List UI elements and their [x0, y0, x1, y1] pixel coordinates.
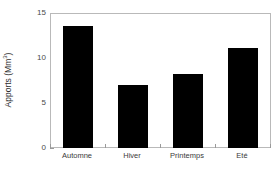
x-tick-label-ete: Eté: [236, 152, 247, 160]
bar-slot-hiver: [105, 13, 160, 148]
bar-automne: [63, 26, 93, 148]
y-tick-label-5: 5: [16, 99, 46, 107]
x-tick-label-automne: Automne: [62, 152, 92, 160]
y-tick-label-10: 10: [16, 54, 46, 62]
x-tick-label-hiver: Hiver: [123, 152, 141, 160]
x-tick-mark-3: [215, 144, 216, 148]
bar-slot-automne: [50, 13, 105, 148]
bar-slot-ete: [216, 13, 271, 148]
x-tick-mark-2: [160, 144, 161, 148]
bar-hiver: [118, 85, 148, 148]
y-axis-title-suffix: ): [3, 53, 13, 56]
y-tick-mark-0: [50, 148, 54, 149]
bar-slot-printemps: [161, 13, 216, 148]
x-tick-mark-0: [50, 144, 51, 148]
x-tick-label-printemps: Printemps: [170, 152, 204, 160]
y-tick-label-0: 0: [16, 144, 46, 152]
bar-printemps: [173, 74, 203, 148]
x-tick-mark-4: [270, 144, 271, 148]
y-axis-title-text: Apports (Mm: [3, 59, 13, 108]
bars-layer: [50, 13, 271, 148]
y-axis-title-superscript: 3: [2, 55, 8, 58]
y-axis-title: Apports (Mm3): [3, 32, 13, 128]
y-tick-label-15: 15: [16, 9, 46, 17]
bar-ete: [228, 48, 258, 148]
x-tick-mark-1: [105, 144, 106, 148]
bar-chart-figure: Apports (Mm3) 15 10 5 0 Automne Hiver Pr…: [0, 0, 280, 171]
